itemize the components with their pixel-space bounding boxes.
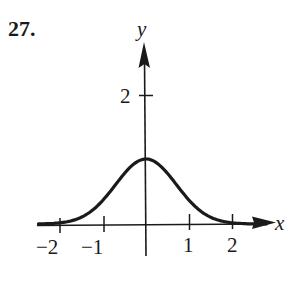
chart: −2 −1 1 2 2 x y xyxy=(0,0,303,290)
y-axis xyxy=(145,58,147,256)
x-tick-label: −2 xyxy=(36,235,58,259)
x-axis xyxy=(37,224,258,226)
x-tick-label: 1 xyxy=(183,233,194,257)
x-axis-label: x xyxy=(274,211,285,235)
x-tick-label: −1 xyxy=(81,235,103,259)
x-tick-label: 2 xyxy=(227,233,238,257)
y-tick-label: 2 xyxy=(120,84,131,108)
y-axis-arrow-icon xyxy=(139,42,151,68)
y-axis-label: y xyxy=(135,17,147,41)
